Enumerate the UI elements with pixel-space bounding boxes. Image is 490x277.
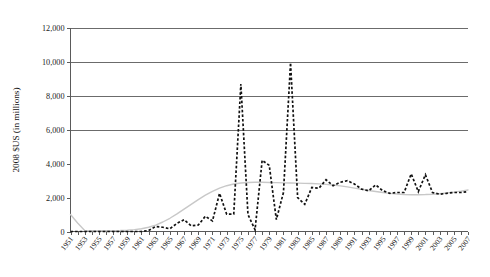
y-tick-label: 2,000	[46, 194, 64, 203]
y-tick-label: 6,000	[46, 126, 64, 135]
y-axis-title: 2008 $US (in millions)	[11, 88, 21, 173]
chart-canvas: 2008 $US (in millions) 19511953195519571…	[0, 0, 490, 277]
y-tick-label: 4,000	[46, 160, 64, 169]
y-tick-label: 0	[60, 228, 64, 237]
y-tick-label: 8,000	[46, 92, 64, 101]
chart-figure: 2008 $US (in millions) 19511953195519571…	[0, 0, 490, 277]
y-tick-label: 10,000	[42, 58, 65, 67]
y-tick-label: 12,000	[42, 24, 65, 33]
chart-background	[0, 0, 490, 277]
